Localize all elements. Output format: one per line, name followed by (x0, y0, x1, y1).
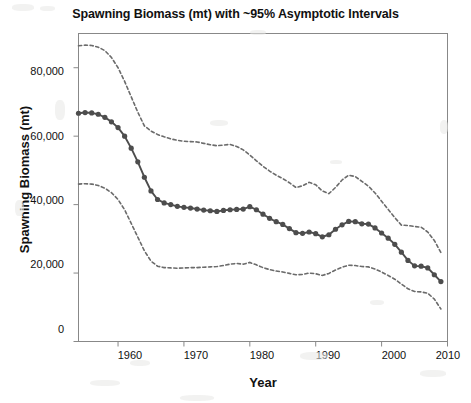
spawning-biomass-markers (76, 110, 444, 284)
lower-confidence-interval-line (79, 184, 441, 309)
data-point (162, 200, 167, 205)
data-point (102, 115, 107, 120)
data-point (247, 204, 252, 209)
data-point (313, 231, 318, 236)
data-point (419, 264, 424, 269)
data-point (287, 226, 292, 231)
data-point (221, 208, 226, 213)
data-point (438, 279, 443, 284)
data-point (372, 225, 377, 230)
data-point (208, 208, 213, 213)
data-point (234, 207, 239, 212)
data-point (254, 207, 259, 212)
data-point (326, 232, 331, 237)
data-point (274, 219, 279, 224)
axes-frame (79, 34, 448, 342)
data-point (386, 236, 391, 241)
data-point (122, 134, 127, 139)
x-axis-ticks (118, 342, 447, 347)
data-point (333, 227, 338, 232)
data-point (320, 234, 325, 239)
spawning-biomass-line (79, 113, 441, 282)
data-point (346, 219, 351, 224)
data-point (96, 112, 101, 117)
plot-area (0, 0, 471, 403)
data-point (399, 250, 404, 255)
data-point (353, 219, 358, 224)
data-point (432, 272, 437, 277)
chart-container: Spawning Biomass (mt) with ~95% Asymptot… (0, 0, 471, 403)
data-point (129, 146, 134, 151)
data-point (82, 110, 87, 115)
data-point (280, 222, 285, 227)
data-point (188, 205, 193, 210)
data-point (307, 229, 312, 234)
data-point (405, 258, 410, 263)
data-point (300, 231, 305, 236)
data-point (267, 216, 272, 221)
data-point (260, 212, 265, 217)
data-point (181, 205, 186, 210)
y-axis-ticks (74, 68, 79, 342)
data-point (241, 206, 246, 211)
data-point (115, 125, 120, 130)
data-point (109, 119, 114, 124)
data-point (379, 230, 384, 235)
data-point (392, 242, 397, 247)
data-point (227, 207, 232, 212)
data-point (168, 202, 173, 207)
data-point (142, 175, 147, 180)
data-point (366, 222, 371, 227)
data-point (195, 206, 200, 211)
data-point (175, 204, 180, 209)
data-point (425, 265, 430, 270)
data-point (148, 188, 153, 193)
data-point (412, 263, 417, 268)
data-point (135, 159, 140, 164)
data-point (76, 111, 81, 116)
data-point (339, 222, 344, 227)
data-point (214, 209, 219, 214)
data-point (155, 197, 160, 202)
data-point (359, 221, 364, 226)
data-point (201, 207, 206, 212)
data-point (293, 230, 298, 235)
data-point (89, 110, 94, 115)
